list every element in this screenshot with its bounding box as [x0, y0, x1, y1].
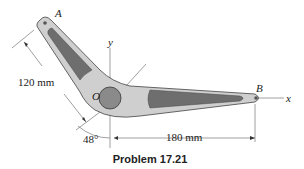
pin-A: [43, 21, 47, 25]
bell-crank-diagram: A B O y x 120 mm 180 mm 48° Problem 17.2…: [0, 0, 304, 169]
label-y: y: [107, 36, 113, 48]
label-A: A: [54, 7, 62, 19]
dimension-label-180: 180 mm: [166, 131, 203, 143]
dimension-label-120: 120 mm: [18, 76, 55, 88]
figure-caption: Problem 17.21: [113, 153, 188, 165]
label-B: B: [256, 82, 263, 94]
label-x: x: [285, 92, 291, 104]
arrowhead-180-left: [114, 136, 118, 140]
pin-B: [254, 96, 258, 100]
label-O: O: [92, 90, 100, 102]
angle-label-48: 48°: [83, 133, 98, 145]
pivot-O: [99, 87, 121, 109]
arrowhead-180-right: [250, 136, 255, 140]
